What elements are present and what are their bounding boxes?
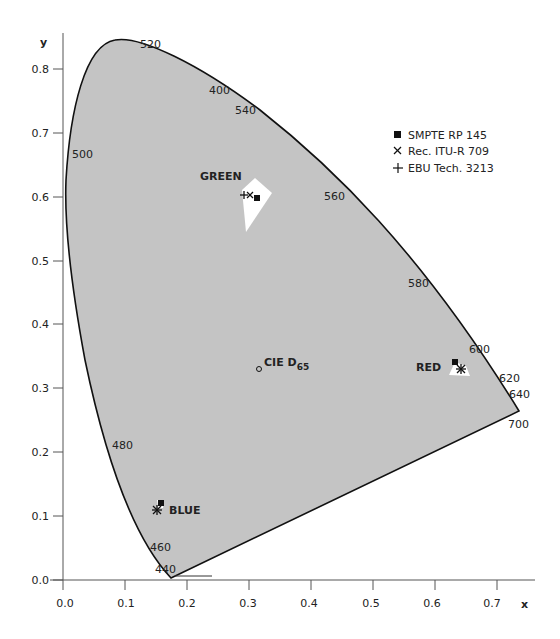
svg-text:440: 440 bbox=[155, 563, 176, 576]
green-label: GREEN bbox=[200, 170, 242, 183]
svg-text:0.7: 0.7 bbox=[32, 127, 50, 140]
svg-text:500: 500 bbox=[72, 148, 93, 161]
svg-text:480: 480 bbox=[112, 439, 133, 452]
svg-text:0.3: 0.3 bbox=[239, 597, 257, 610]
red-label: RED bbox=[416, 361, 441, 374]
spectral-locus bbox=[66, 39, 519, 578]
cie-chromaticity-chart: 0.0 0.1 0.2 0.3 0.4 0.5 0.6 0.7 0.8 0.0 … bbox=[0, 0, 560, 639]
svg-text:540: 540 bbox=[235, 104, 256, 117]
svg-text:560: 560 bbox=[324, 190, 345, 203]
x-tick-labels: 0.0 0.1 0.2 0.3 0.4 0.5 0.6 0.7 bbox=[56, 597, 501, 610]
svg-text:0.5: 0.5 bbox=[32, 255, 50, 268]
y-ticks bbox=[53, 69, 63, 580]
svg-text:580: 580 bbox=[408, 277, 429, 290]
svg-text:0.0: 0.0 bbox=[32, 574, 50, 587]
svg-text:0.5: 0.5 bbox=[362, 597, 380, 610]
svg-text:600: 600 bbox=[469, 343, 490, 356]
legend-smpte: SMPTE RP 145 bbox=[408, 129, 487, 142]
svg-text:0.2: 0.2 bbox=[32, 446, 50, 459]
svg-text:0.3: 0.3 bbox=[32, 382, 50, 395]
svg-text:400: 400 bbox=[209, 84, 230, 97]
svg-text:0.4: 0.4 bbox=[300, 597, 318, 610]
svg-text:0.6: 0.6 bbox=[32, 191, 50, 204]
legend-rec709: Rec. ITU-R 709 bbox=[408, 145, 489, 158]
legend: SMPTE RP 145 Rec. ITU-R 709 EBU Tech. 32… bbox=[393, 129, 494, 175]
svg-text:460: 460 bbox=[150, 541, 171, 554]
svg-text:700: 700 bbox=[508, 418, 529, 431]
svg-text:0.8: 0.8 bbox=[32, 63, 50, 76]
svg-text:620: 620 bbox=[499, 372, 520, 385]
y-axis-label: y bbox=[40, 36, 47, 49]
svg-text:0.1: 0.1 bbox=[32, 510, 50, 523]
svg-text:0.7: 0.7 bbox=[483, 597, 501, 610]
blue-label: BLUE bbox=[169, 504, 200, 517]
svg-text:0.4: 0.4 bbox=[32, 318, 50, 331]
svg-text:0.1: 0.1 bbox=[117, 597, 135, 610]
legend-ebu: EBU Tech. 3213 bbox=[408, 162, 494, 175]
svg-text:520: 520 bbox=[140, 38, 161, 51]
svg-text:0.6: 0.6 bbox=[423, 597, 441, 610]
svg-text:0.2: 0.2 bbox=[178, 597, 196, 610]
x-axis-label: x bbox=[521, 598, 528, 611]
svg-text:0.0: 0.0 bbox=[56, 597, 74, 610]
x-ticks bbox=[63, 580, 497, 590]
y-tick-labels: 0.0 0.1 0.2 0.3 0.4 0.5 0.6 0.7 0.8 bbox=[32, 63, 50, 587]
svg-text:640: 640 bbox=[509, 388, 530, 401]
